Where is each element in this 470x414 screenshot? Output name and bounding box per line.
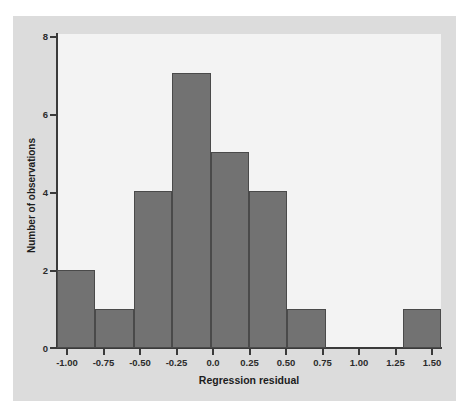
x-axis-tick [285, 348, 287, 355]
y-axis-tick [50, 270, 57, 272]
histogram-bar [287, 309, 325, 348]
histogram-figure: 0 2 4 6 8 Number of observations -1.00 -… [0, 0, 470, 414]
x-axis-title: Regression residual [57, 374, 441, 386]
y-axis-tick-label: 0 [20, 343, 48, 354]
histogram-bar [403, 309, 441, 348]
y-axis-tick-label: 6 [20, 109, 48, 120]
x-axis-tick [212, 348, 214, 355]
x-axis-tick-label: 1.50 [409, 357, 455, 368]
y-axis-tick [50, 114, 57, 116]
y-axis-tick [50, 36, 57, 38]
histogram-bar [95, 309, 133, 348]
histogram-bar [57, 270, 95, 349]
x-axis-tick [103, 348, 105, 355]
y-axis-tick-label: 8 [20, 31, 48, 42]
histogram-bar [134, 191, 172, 348]
x-axis-tick [322, 348, 324, 355]
x-axis-tick [176, 348, 178, 355]
histogram-bar [249, 191, 287, 348]
x-axis-tick [431, 348, 433, 355]
histogram-bar [211, 152, 249, 348]
x-axis-tick [66, 348, 68, 355]
x-axis-tick [139, 348, 141, 355]
x-axis-tick [395, 348, 397, 355]
histogram-bar [172, 73, 210, 348]
x-axis-tick [249, 348, 251, 355]
y-axis-title: Number of observations [23, 120, 39, 270]
x-axis-tick [358, 348, 360, 355]
y-axis-tick [50, 192, 57, 194]
